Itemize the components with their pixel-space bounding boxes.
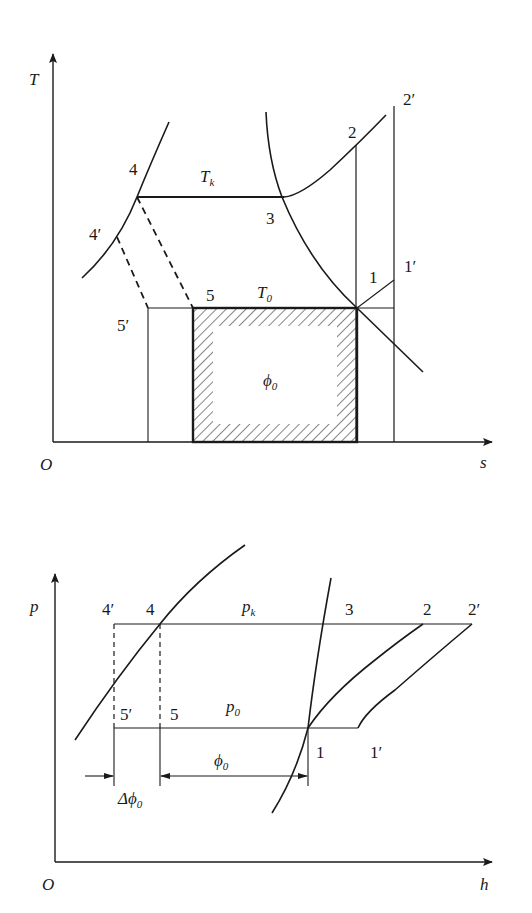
ph-point-2p: 2′ xyxy=(468,600,480,619)
ph-y-label: p xyxy=(29,597,39,616)
ph-phi-label: ϕ0 xyxy=(214,751,229,772)
ts-superheat-curve xyxy=(284,115,386,197)
ts-throttling-4p-5p xyxy=(117,237,148,308)
ts-capacity-label: ϕ0 xyxy=(263,371,278,392)
ts-point-2: 2 xyxy=(348,123,357,142)
ts-point-2p: 2′ xyxy=(403,90,415,109)
ph-point-5p: 5′ xyxy=(120,705,132,724)
ph-diagram: p O h 4′ 4 3 2 2′ 5′ 5 1 1′ pk p0 ϕ0 Δϕ0 xyxy=(29,545,492,894)
ts-condensing-label: Tk xyxy=(200,167,215,188)
ts-evaporating-label: T0 xyxy=(257,283,272,304)
ph-dphi-label: Δϕ0 xyxy=(117,789,143,810)
ph-point-1: 1 xyxy=(316,743,325,762)
ph-origin-label: O xyxy=(42,875,54,894)
refrigeration-cycle-diagrams: T O s 4 4′ 3 2 2′ 1 1′ 5 5′ Tk T0 ϕ0 xyxy=(0,0,532,913)
ts-point-1p: 1′ xyxy=(404,257,416,276)
ts-point-3: 3 xyxy=(266,209,275,228)
ph-compression-1p-2p xyxy=(358,624,472,728)
ph-point-5: 5 xyxy=(170,705,179,724)
ts-diagram: T O s 4 4′ 3 2 2′ 1 1′ 5 5′ Tk T0 ϕ0 xyxy=(29,54,492,474)
ph-saturated-vapor-curve xyxy=(272,578,331,813)
ts-origin-label: O xyxy=(40,455,52,474)
ph-point-4: 4 xyxy=(146,600,155,619)
ts-y-label: T xyxy=(29,70,40,89)
ph-x-label: h xyxy=(480,875,489,894)
ts-x-label: s xyxy=(480,453,487,472)
ts-throttling-4-5 xyxy=(137,197,193,308)
ph-compression-1-2 xyxy=(308,624,423,728)
ts-saturated-liquid-curve xyxy=(82,122,169,278)
ph-point-3: 3 xyxy=(345,600,354,619)
ts-refrigeration-capacity-area xyxy=(193,308,357,442)
ph-point-1p: 1′ xyxy=(370,743,382,762)
ph-point-2: 2 xyxy=(423,600,432,619)
ts-point-4p: 4′ xyxy=(89,225,101,244)
ph-point-4p: 4′ xyxy=(102,600,114,619)
ts-point-5: 5 xyxy=(206,286,215,305)
ts-point-1: 1 xyxy=(369,268,378,287)
ph-condensing-label: pk xyxy=(241,597,257,618)
ph-evaporating-label: p0 xyxy=(225,697,241,718)
ts-point-4: 4 xyxy=(129,160,138,179)
ts-point-5p: 5′ xyxy=(117,316,129,335)
